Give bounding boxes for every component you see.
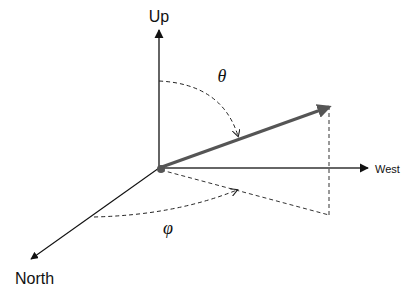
- west-label: West: [375, 163, 400, 175]
- coordinate-diagram: Up West North θ φ: [0, 0, 414, 294]
- phi-symbol: φ: [163, 218, 173, 238]
- direction-vector: [159, 107, 329, 168]
- origin-point: [157, 165, 165, 173]
- ground-projection-line: [161, 170, 329, 215]
- phi-arc: [94, 190, 237, 217]
- up-label: Up: [149, 8, 170, 25]
- theta-symbol: θ: [218, 66, 227, 86]
- theta-arc: [159, 81, 238, 136]
- north-label: North: [15, 270, 54, 287]
